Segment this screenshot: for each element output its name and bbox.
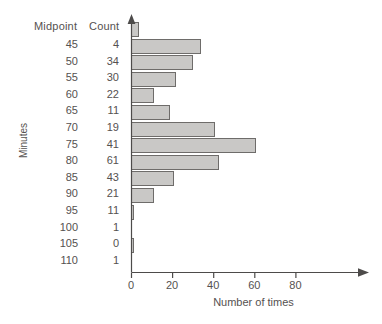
table-row-midpoint: 50 [34, 55, 78, 68]
table-row-midpoint: 100 [34, 221, 78, 234]
histogram-figure: Midpoint Count 4545034553060226511701975… [0, 0, 382, 324]
table-row-count: 1 [86, 254, 119, 267]
histogram-bar [131, 238, 134, 253]
table-row-count: 22 [86, 88, 119, 101]
column-header-midpoint: Midpoint [34, 20, 77, 32]
histogram-bar [131, 205, 134, 220]
table-row-count: 41 [86, 138, 119, 151]
histogram-bar [131, 39, 201, 54]
x-tick-label: 0 [116, 279, 146, 291]
histogram-bar [131, 72, 176, 87]
table-row-midpoint: 70 [34, 121, 78, 134]
histogram-bar [131, 88, 154, 103]
table-row-midpoint: 95 [34, 204, 78, 217]
table-row-count: 34 [86, 55, 119, 68]
table-row-count: 61 [86, 154, 119, 167]
histogram-bar [131, 22, 139, 37]
table-row-midpoint: 65 [34, 104, 78, 117]
x-tick-label: 20 [157, 279, 187, 291]
x-tick-label: 40 [198, 279, 228, 291]
x-tick-label: 80 [280, 279, 310, 291]
histogram-bar [131, 188, 154, 203]
table-row-midpoint: 110 [34, 254, 78, 267]
table-row-count: 0 [86, 237, 119, 250]
table-row-count: 19 [86, 121, 119, 134]
table-row-midpoint: 105 [34, 237, 78, 250]
table-row-count: 21 [86, 187, 119, 200]
table-row-midpoint: 55 [34, 71, 78, 84]
y-axis-label: Minutes [18, 111, 29, 171]
x-axis-label: Number of times [131, 296, 376, 308]
column-header-count: Count [89, 20, 119, 32]
table-row-midpoint: 45 [34, 38, 78, 51]
table-row-count: 43 [86, 171, 119, 184]
table-row-midpoint: 80 [34, 154, 78, 167]
table-row-count: 1 [86, 221, 119, 234]
table-row-count: 11 [86, 104, 119, 117]
histogram-bar [131, 105, 170, 120]
histogram-bar [131, 55, 193, 70]
table-row-count: 30 [86, 71, 119, 84]
histogram-bar [131, 138, 256, 153]
histogram-bar [131, 155, 219, 170]
table-row-midpoint: 60 [34, 88, 78, 101]
table-row-midpoint: 85 [34, 171, 78, 184]
histogram-bar [131, 122, 215, 137]
table-row-midpoint: 75 [34, 138, 78, 151]
table-row-midpoint: 90 [34, 187, 78, 200]
histogram-bar [131, 171, 174, 186]
plot-area [131, 16, 376, 274]
table-row-count: 11 [86, 204, 119, 217]
x-tick-label: 60 [239, 279, 269, 291]
table-row-count: 4 [86, 38, 119, 51]
